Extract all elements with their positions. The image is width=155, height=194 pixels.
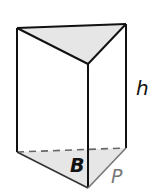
triangular-prism-diagram: h B P <box>0 0 155 194</box>
base-label: B <box>70 154 84 176</box>
perimeter-label: P <box>111 165 123 187</box>
height-label: h <box>136 76 149 100</box>
top-face <box>17 24 126 64</box>
